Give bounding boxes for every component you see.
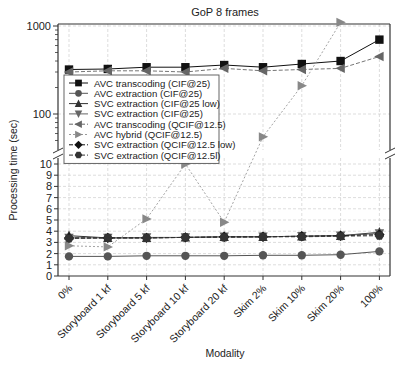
legend-label: SVC extraction (QCIF@12.5l) <box>94 150 221 161</box>
y-tick-label: 8 <box>46 180 52 192</box>
data-point <box>375 247 383 255</box>
y-tick-label: 9 <box>46 169 52 181</box>
data-point <box>374 52 383 61</box>
data-point <box>336 251 344 259</box>
data-point <box>181 252 189 260</box>
data-point <box>336 18 345 27</box>
data-point <box>220 252 228 260</box>
data-point <box>104 242 113 251</box>
x-tick-label: 100% <box>357 282 384 309</box>
data-point <box>65 252 73 260</box>
y-axis-label: Processing time (sec) <box>7 120 19 221</box>
y-tick-label: 6 <box>46 203 52 215</box>
y-tick-label: 100 <box>33 108 51 120</box>
x-tick-label: 0% <box>55 282 74 301</box>
legend: AVC transcoding (CIF@25)AVC extraction (… <box>64 75 235 163</box>
x-tick-label: Skim 20% <box>304 282 346 324</box>
legend-marker <box>75 80 82 87</box>
data-point <box>375 35 383 43</box>
data-point <box>298 251 306 259</box>
data-point <box>104 252 112 260</box>
x-axis-label: Modality <box>205 347 245 359</box>
x-tick-label: Skim 10% <box>265 282 307 324</box>
data-point <box>298 81 307 90</box>
y-tick-label: 2 <box>46 248 52 260</box>
chart-title: GoP 8 frames <box>191 6 259 18</box>
legend-marker <box>75 90 82 97</box>
data-point <box>336 57 344 65</box>
data-point <box>259 251 267 259</box>
x-tick-label: Skim 2% <box>231 282 269 320</box>
y-tick-label: 5 <box>46 214 52 226</box>
y-tick-label: 1 <box>46 259 52 271</box>
chart: GoP 8 frames 0123456789101001000 0%Story… <box>0 0 405 374</box>
y-tick-label: 0 <box>46 270 52 282</box>
data-point <box>259 132 268 141</box>
data-point <box>220 218 229 227</box>
y-tick-label: 10 <box>40 158 52 170</box>
y-tick-label: 7 <box>46 192 52 204</box>
y-tick-label: 3 <box>46 236 52 248</box>
y-tick-label: 1000 <box>27 20 51 32</box>
data-point <box>142 252 150 260</box>
y-tick-label: 4 <box>46 225 52 237</box>
data-point <box>142 214 151 223</box>
x-axis: 0%Storyboard 1 kfStoryboard 5 kfStoryboa… <box>54 276 384 345</box>
